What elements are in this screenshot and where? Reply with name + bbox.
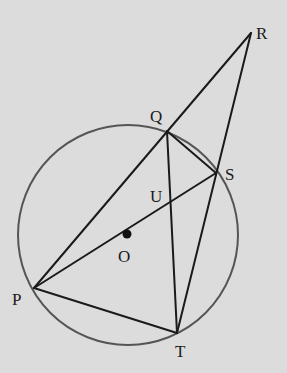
label-t: T	[175, 342, 186, 361]
center-dot-o	[123, 230, 132, 239]
geometry-diagram: R Q S U O P T	[0, 0, 287, 373]
label-o: O	[118, 247, 130, 266]
label-u: U	[150, 187, 162, 206]
label-q: Q	[150, 107, 162, 126]
label-p: P	[12, 290, 21, 309]
background	[0, 0, 287, 373]
label-r: R	[256, 24, 268, 43]
label-s: S	[225, 165, 234, 184]
